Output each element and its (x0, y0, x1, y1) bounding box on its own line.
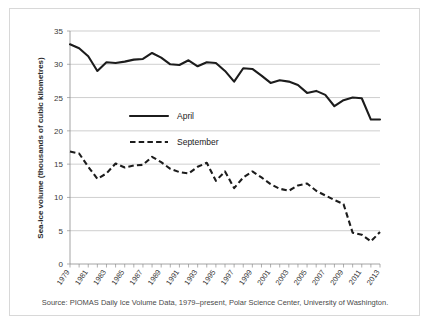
y-tick-label-25: 25 (54, 94, 63, 103)
gridlines (70, 31, 380, 231)
x-tick-label-2009: 2009 (328, 268, 345, 287)
legend-label-april: April (177, 111, 194, 121)
axis-tickmarks (67, 31, 380, 268)
x-tick-label-1981: 1981 (73, 268, 90, 287)
x-tick-label-1985: 1985 (109, 268, 126, 287)
x-tick-label-2001: 2001 (255, 268, 272, 287)
x-tick-label-1989: 1989 (146, 268, 163, 287)
source-note: Source: PIOMAS Daily Ice Volume Data, 19… (42, 298, 389, 307)
y-axis-title: Sea-ice volume (thousands of cubic kilom… (36, 57, 45, 239)
y-tick-label-30: 30 (54, 60, 63, 69)
x-tick-label-1999: 1999 (237, 268, 254, 287)
x-tick-label-1991: 1991 (164, 268, 181, 287)
x-tick-label-2003: 2003 (274, 268, 291, 287)
x-tick-label-2005: 2005 (292, 268, 309, 287)
x-tick-label-1993: 1993 (182, 268, 199, 287)
x-tick-label-2007: 2007 (310, 268, 327, 287)
line-chart: 05101520253035 1979198119831985198719891… (0, 0, 431, 334)
chart-canvas: 05101520253035 1979198119831985198719891… (0, 0, 431, 334)
legend-label-september: September (177, 137, 219, 147)
y-tick-label-10: 10 (54, 193, 63, 202)
y-tick-label-35: 35 (54, 27, 63, 36)
y-tick-label-15: 15 (54, 160, 63, 169)
y-tick-label-20: 20 (54, 127, 63, 136)
x-tick-label-1983: 1983 (91, 268, 108, 287)
x-tick-label-2013: 2013 (365, 268, 382, 287)
y-tick-label-5: 5 (59, 227, 64, 236)
figure-root: 05101520253035 1979198119831985198719891… (0, 0, 431, 334)
x-tick-label-1979: 1979 (55, 268, 72, 287)
x-axis-tick-labels: 1979198119831985198719891991199319951997… (55, 268, 382, 287)
x-tick-label-2011: 2011 (347, 268, 364, 286)
x-tick-label-1987: 1987 (128, 268, 145, 287)
series-line-april (70, 44, 380, 119)
series-line-september (70, 151, 380, 241)
x-tick-label-1995: 1995 (201, 268, 218, 287)
chart-legend: April September (130, 111, 219, 147)
y-tick-label-0: 0 (59, 260, 64, 269)
x-tick-label-1997: 1997 (219, 268, 236, 287)
y-axis-tick-labels: 05101520253035 (54, 27, 63, 269)
